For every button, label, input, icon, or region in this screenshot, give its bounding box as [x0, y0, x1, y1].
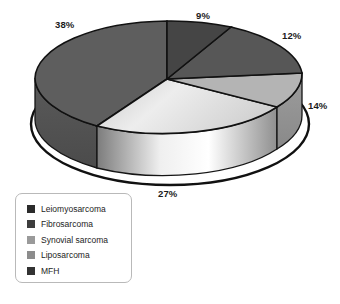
- pie-label-liposarcoma: 27%: [158, 189, 177, 199]
- pie-label-mfh: 38%: [55, 20, 74, 30]
- legend-label: Liposarcoma: [41, 251, 90, 260]
- legend-item-synovial-sarcoma[interactable]: Synovial sarcoma: [27, 232, 131, 248]
- legend-label: Fibrosarcoma: [41, 220, 93, 229]
- legend-swatch-icon: [27, 205, 35, 213]
- legend-label: Leiomyosarcoma: [41, 205, 106, 214]
- legend-item-mfh[interactable]: MFH: [27, 263, 131, 279]
- legend-swatch-icon: [27, 236, 35, 244]
- legend-swatch-icon: [27, 251, 35, 259]
- pie-label-synovial: 14%: [308, 101, 327, 111]
- chart-legend: Leiomyosarcoma Fibrosarcoma Synovial sar…: [15, 193, 132, 283]
- legend-swatch-icon: [27, 267, 35, 275]
- pie-label-fibrosarcoma: 12%: [282, 31, 301, 41]
- legend-list: Leiomyosarcoma Fibrosarcoma Synovial sar…: [16, 194, 131, 279]
- legend-item-leiomyosarcoma[interactable]: Leiomyosarcoma: [27, 201, 131, 217]
- pie-chart-figure: 38% 9% 12% 14% 27% Leiomyosarcoma Fibros…: [0, 0, 340, 304]
- pie-label-leiomyosarcoma: 9%: [196, 11, 210, 21]
- legend-swatch-icon: [27, 220, 35, 228]
- legend-label: Synovial sarcoma: [41, 236, 108, 245]
- legend-item-fibrosarcoma[interactable]: Fibrosarcoma: [27, 217, 131, 233]
- legend-item-liposarcoma[interactable]: Liposarcoma: [27, 248, 131, 264]
- legend-label: MFH: [41, 267, 59, 276]
